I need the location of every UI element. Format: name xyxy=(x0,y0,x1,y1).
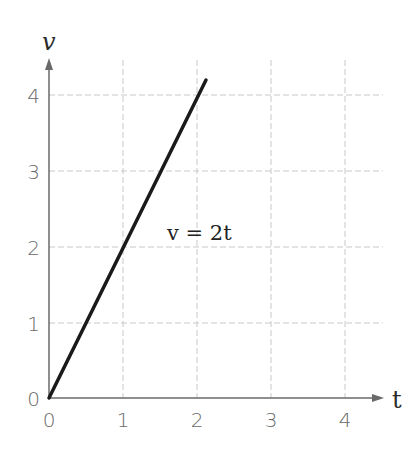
y-axis-arrow-icon xyxy=(45,58,53,70)
y-tick-4: 4 xyxy=(27,84,40,108)
equation-annotation: v = 2t xyxy=(166,221,232,245)
y-tick-1: 1 xyxy=(27,312,40,336)
y-axis-label: v xyxy=(42,28,56,56)
x-tick-0: 0 xyxy=(43,408,56,432)
y-tick-3: 3 xyxy=(27,160,40,184)
x-axis-arrow-icon xyxy=(372,394,384,402)
velocity-time-chart: 0 1 2 3 4 0 1 2 3 4 v t v = 2t xyxy=(0,0,417,458)
y-tick-labels: 0 1 2 3 4 xyxy=(27,84,40,411)
y-tick-0: 0 xyxy=(27,387,40,411)
x-tick-2: 2 xyxy=(191,408,204,432)
x-axis-label: t xyxy=(392,386,402,414)
y-tick-2: 2 xyxy=(27,236,40,260)
x-tick-4: 4 xyxy=(339,408,352,432)
x-tick-1: 1 xyxy=(117,408,130,432)
x-tick-3: 3 xyxy=(265,408,278,432)
x-tick-labels: 0 1 2 3 4 xyxy=(43,408,352,432)
